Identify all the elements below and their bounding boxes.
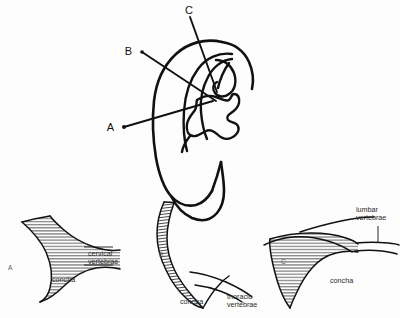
- ear-lobule-upper: [212, 162, 221, 191]
- pointer-lines: [122, 17, 217, 129]
- panel-a: cervical vertebrae concha A: [8, 216, 120, 302]
- panel-b: thoracic vertebrae concha B: [150, 195, 257, 315]
- panel-a-letter: A: [8, 264, 13, 271]
- panel-a-cervical-line2: vertebrae: [88, 257, 118, 266]
- panel-c-right-tail-2: [356, 242, 399, 245]
- panel-c-right-tail: [355, 250, 397, 254]
- ear-marker-a: A: [107, 121, 115, 133]
- panel-c-letter: C: [281, 258, 286, 265]
- panel-b-letter: B: [159, 251, 163, 258]
- panel-c: lumbar vertebrae concha C: [262, 205, 399, 313]
- panel-b-concha-curve: [203, 276, 229, 308]
- ear-superior-crus: [218, 63, 229, 88]
- anatomical-figure: A B C cervical vertebrae concha A: [0, 0, 400, 318]
- panel-a-concha-label: concha: [52, 275, 75, 284]
- panel-c-lumbar-line2: vertebrae: [356, 213, 386, 222]
- panel-b-thoracic-line2: vertebrae: [227, 300, 257, 309]
- panel-c-concha-label: concha: [330, 276, 353, 285]
- ear-marker-b: B: [125, 45, 132, 57]
- ear-diagram: A B C: [107, 4, 253, 220]
- ear-lobule: [171, 162, 224, 220]
- figure-canvas: A B C cervical vertebrae concha A: [0, 0, 400, 318]
- pointer-dot-b: [140, 50, 144, 54]
- pointer-line-c: [190, 17, 217, 92]
- ear-marker-c: C: [185, 4, 193, 16]
- pointer-dot-a: [122, 125, 126, 129]
- ear-antihelix-inner: [201, 59, 232, 139]
- panel-b-concha-label: concha: [180, 297, 203, 306]
- pointer-line-a: [124, 101, 213, 127]
